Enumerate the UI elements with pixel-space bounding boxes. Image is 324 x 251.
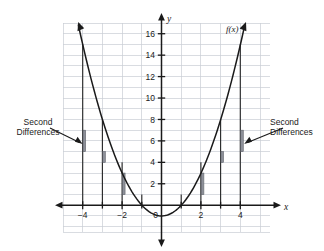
y-tick-label-4: 4 bbox=[150, 157, 155, 167]
y-tick-label-14: 14 bbox=[146, 50, 156, 60]
grid-background bbox=[63, 23, 270, 232]
second-differences-label-right: Second Differences bbox=[270, 117, 324, 137]
x-tick-label-0: 0 bbox=[153, 210, 158, 220]
y-tick-label-2: 2 bbox=[150, 179, 155, 189]
x-tick-label-plus-4: 4 bbox=[238, 210, 243, 220]
second-differences-left-line2: Differences bbox=[5, 127, 71, 137]
function-label: f(x) bbox=[226, 24, 239, 34]
second-differences-left-line1: Second bbox=[5, 117, 71, 127]
y-tick-label-12: 12 bbox=[146, 72, 156, 82]
x-axis-label: x bbox=[283, 202, 289, 212]
y-tick-label-8: 8 bbox=[150, 115, 155, 125]
y-tick-label-6: 6 bbox=[150, 136, 155, 146]
y-tick-label-16: 16 bbox=[146, 29, 156, 39]
y-tick-label-10: 10 bbox=[146, 93, 156, 103]
plot-grid bbox=[63, 23, 270, 232]
x-tick-label-minus-2: −2 bbox=[117, 210, 127, 220]
second-differences-right-line1: Second bbox=[270, 117, 324, 127]
y-axis-label: y bbox=[166, 14, 172, 24]
second-differences-label-left: Second Differences bbox=[5, 117, 71, 137]
x-tick-label-minus-4: −4 bbox=[78, 210, 88, 220]
x-tick-label-plus-2: 2 bbox=[199, 210, 204, 220]
second-differences-right-line2: Differences bbox=[270, 127, 324, 137]
